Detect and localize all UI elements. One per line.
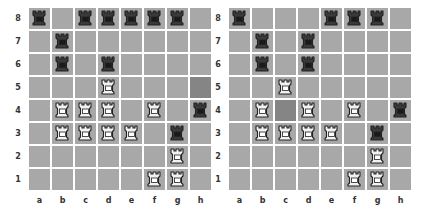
square-h5[interactable] [390,77,411,98]
square-f1[interactable] [344,169,365,190]
square-g2[interactable] [167,146,188,167]
square-f4[interactable] [144,100,165,121]
black-rook-icon[interactable] [170,125,185,142]
black-rook-icon[interactable] [324,10,339,27]
square-h2[interactable] [190,146,211,167]
square-a7[interactable] [29,31,50,52]
square-b8[interactable] [52,8,73,29]
white-rook-icon[interactable] [370,148,385,165]
square-e2[interactable] [321,146,342,167]
black-rook-icon[interactable] [347,10,362,27]
square-a2[interactable] [229,146,250,167]
square-c3[interactable] [275,123,296,144]
square-a4[interactable] [29,100,50,121]
square-a5[interactable] [29,77,50,98]
square-h5[interactable] [190,77,211,98]
square-d3[interactable] [298,123,319,144]
square-d5[interactable] [98,77,119,98]
white-rook-icon[interactable] [78,125,93,142]
square-d1[interactable] [98,169,119,190]
square-d7[interactable] [298,31,319,52]
square-g7[interactable] [167,31,188,52]
square-c4[interactable] [75,100,96,121]
square-e1[interactable] [121,169,142,190]
white-rook-icon[interactable] [101,125,116,142]
square-c6[interactable] [75,54,96,75]
square-b3[interactable] [252,123,273,144]
square-f8[interactable] [344,8,365,29]
square-g6[interactable] [167,54,188,75]
black-rook-icon[interactable] [370,10,385,27]
square-d2[interactable] [298,146,319,167]
black-rook-icon[interactable] [370,125,385,142]
square-e3[interactable] [321,123,342,144]
square-e3[interactable] [121,123,142,144]
black-rook-icon[interactable] [32,10,47,27]
white-rook-icon[interactable] [170,148,185,165]
square-f1[interactable] [144,169,165,190]
square-d3[interactable] [98,123,119,144]
white-rook-icon[interactable] [147,102,162,119]
square-f3[interactable] [344,123,365,144]
white-rook-icon[interactable] [370,171,385,188]
square-b7[interactable] [52,31,73,52]
square-b2[interactable] [252,146,273,167]
square-e5[interactable] [321,77,342,98]
square-h4[interactable] [390,100,411,121]
square-h2[interactable] [390,146,411,167]
square-f6[interactable] [344,54,365,75]
square-b1[interactable] [252,169,273,190]
square-g2[interactable] [367,146,388,167]
white-rook-icon[interactable] [278,125,293,142]
white-rook-icon[interactable] [55,102,70,119]
square-h8[interactable] [190,8,211,29]
square-h4[interactable] [190,100,211,121]
square-e8[interactable] [321,8,342,29]
square-f5[interactable] [344,77,365,98]
square-d1[interactable] [298,169,319,190]
square-g8[interactable] [167,8,188,29]
square-h1[interactable] [390,169,411,190]
square-a6[interactable] [229,54,250,75]
square-a1[interactable] [29,169,50,190]
square-d5[interactable] [298,77,319,98]
square-d2[interactable] [98,146,119,167]
square-g1[interactable] [367,169,388,190]
black-rook-icon[interactable] [193,102,208,119]
square-c2[interactable] [275,146,296,167]
black-rook-icon[interactable] [255,56,270,73]
white-rook-icon[interactable] [301,125,316,142]
square-h8[interactable] [390,8,411,29]
square-h6[interactable] [390,54,411,75]
square-h6[interactable] [190,54,211,75]
square-d7[interactable] [98,31,119,52]
square-g4[interactable] [167,100,188,121]
black-rook-icon[interactable] [170,10,185,27]
square-b5[interactable] [52,77,73,98]
square-h1[interactable] [190,169,211,190]
square-h3[interactable] [390,123,411,144]
black-rook-icon[interactable] [301,33,316,50]
square-g7[interactable] [367,31,388,52]
square-f7[interactable] [144,31,165,52]
square-e7[interactable] [321,31,342,52]
square-g5[interactable] [367,77,388,98]
square-g6[interactable] [367,54,388,75]
black-rook-icon[interactable] [147,10,162,27]
square-d6[interactable] [298,54,319,75]
square-e5[interactable] [121,77,142,98]
square-a6[interactable] [29,54,50,75]
black-rook-icon[interactable] [393,102,408,119]
square-g3[interactable] [167,123,188,144]
square-c6[interactable] [275,54,296,75]
square-g1[interactable] [167,169,188,190]
square-h7[interactable] [190,31,211,52]
white-rook-icon[interactable] [255,102,270,119]
square-b6[interactable] [52,54,73,75]
square-e4[interactable] [321,100,342,121]
square-g3[interactable] [367,123,388,144]
square-f3[interactable] [144,123,165,144]
square-e6[interactable] [321,54,342,75]
square-e1[interactable] [321,169,342,190]
black-rook-icon[interactable] [255,33,270,50]
